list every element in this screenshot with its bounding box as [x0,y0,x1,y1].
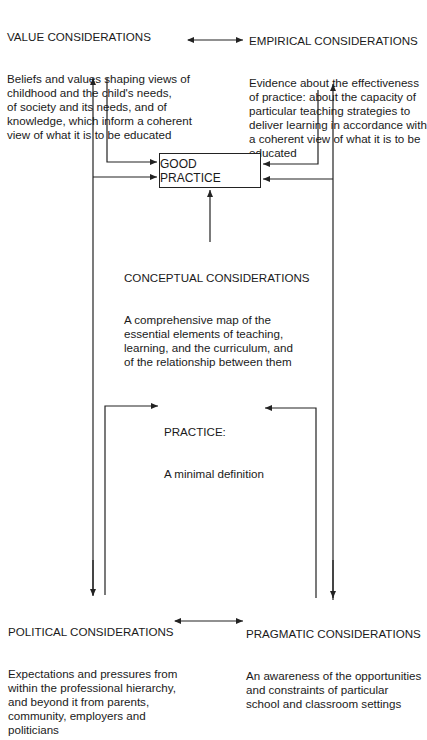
good-practice-box: GOOD PRACTICE [159,153,261,188]
good-practice-label: GOOD PRACTICE [160,157,260,185]
empirical-title: EMPIRICAL CONSIDERATIONS [249,34,427,48]
political-considerations: POLITICAL CONSIDERATIONS Expectations an… [8,597,177,740]
value-body: Beliefs and values shaping views of chil… [7,72,192,142]
conceptual-considerations: CONCEPTUAL CONSIDERATIONS A comprehensiv… [124,243,310,383]
practice-definition: PRACTICE: A minimal definition [164,397,264,495]
pragmatic-considerations: PRAGMATIC CONSIDERATIONS An awareness of… [246,599,421,725]
political-title: POLITICAL CONSIDERATIONS [8,625,177,639]
conceptual-title: CONCEPTUAL CONSIDERATIONS [124,271,310,285]
value-title: VALUE CONSIDERATIONS [7,30,192,44]
pragmatic-title: PRAGMATIC CONSIDERATIONS [246,627,421,641]
pragmatic-to-practice-arrow [265,408,316,598]
empirical-body: Evidence about the effectiveness of prac… [249,76,427,160]
political-to-practice-arrow [105,406,158,595]
political-body: Expectations and pressures from within t… [8,667,177,737]
practice-title: PRACTICE: [164,425,264,439]
pragmatic-body: An awareness of the opportunities and co… [246,669,421,711]
practice-body: A minimal definition [164,467,264,481]
value-considerations: VALUE CONSIDERATIONS Beliefs and values … [7,2,192,156]
conceptual-body: A comprehensive map of the essential ele… [124,313,310,369]
empirical-considerations: EMPIRICAL CONSIDERATIONS Evidence about … [249,6,427,174]
